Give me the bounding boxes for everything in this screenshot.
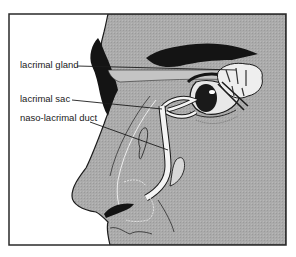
diagram-illustration bbox=[0, 0, 296, 257]
label-naso-lacrimal-duct: naso-lacrimal duct bbox=[20, 112, 97, 123]
label-lacrimal-sac: lacrimal sac bbox=[20, 93, 70, 104]
lacrimal-diagram: lacrimal gland lacrimal sac naso-lacrima… bbox=[0, 0, 296, 257]
label-lacrimal-gland: lacrimal gland bbox=[20, 59, 79, 70]
